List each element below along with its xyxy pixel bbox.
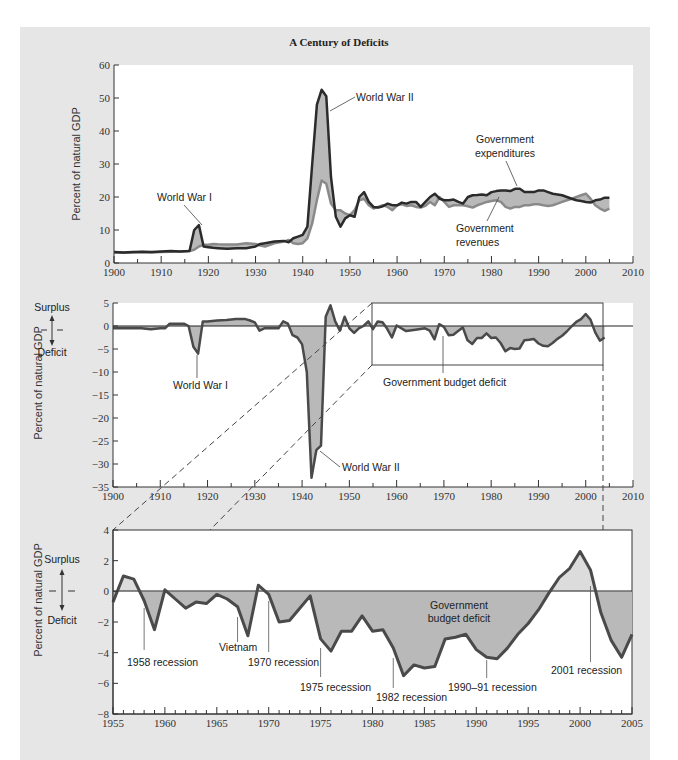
x-tick-label: 1980	[480, 490, 503, 502]
y-tick-label: −10	[92, 366, 110, 378]
y-tick-label: 4	[104, 524, 110, 536]
y-tick-label: −25	[92, 435, 110, 447]
x-tick-label: 1960	[386, 266, 409, 278]
x-tick-label: 1930	[245, 266, 268, 278]
top-chart-expenditures-revenues: 0102030405060190019101920193019401950196…	[70, 59, 645, 278]
annotation-1990-91-recession: 1990–91 recession	[448, 681, 537, 693]
x-tick-label: 2000	[575, 490, 598, 502]
y-tick-label: 10	[99, 224, 111, 236]
arrow-up-icon	[50, 315, 55, 321]
x-tick-label: 1965	[206, 717, 229, 729]
annotation-world-war-i: World War I	[157, 191, 212, 203]
annotation-1970-recession: 1970 recession	[248, 656, 319, 668]
y-tick-label: −4	[97, 647, 109, 659]
x-tick-label: 1940	[292, 266, 315, 278]
y-tick-label: 5	[104, 297, 110, 309]
svg-text:budget deficit: budget deficit	[428, 612, 491, 624]
x-tick-label: 1930	[244, 490, 267, 502]
x-tick-label: 2005	[621, 717, 644, 729]
bottom-arrow-up-icon	[60, 569, 65, 575]
y-tick-label: −20	[92, 412, 110, 424]
x-tick-label: 1990	[465, 717, 488, 729]
annotation-government-budget-deficit: Government	[430, 599, 488, 611]
x-tick-label: 1980	[362, 717, 385, 729]
middle-chart-century-deficit: 50−5−10−15−20−25−30−35190019101920193019…	[32, 297, 645, 502]
middle-y-axis-label: Percent of natural GDP	[32, 326, 44, 440]
svg-text:expenditures: expenditures	[475, 147, 535, 159]
y-tick-label: 2	[104, 555, 110, 567]
y-tick-label: 60	[99, 59, 111, 71]
x-tick-label: 1920	[197, 266, 220, 278]
annotation-2001-recession: 2001 recession	[551, 664, 622, 676]
annotation-government-expenditures: Government	[476, 133, 534, 145]
annotation-world-war-ii: World War II	[342, 461, 400, 473]
top-y-axis-label: Percent of natural GDP	[70, 107, 82, 221]
bottom-surplus-deficit-indicator: Surplus Deficit	[44, 553, 80, 626]
x-tick-label: 2010	[622, 490, 645, 502]
x-tick-label: 2000	[575, 266, 598, 278]
x-tick-label: 1955	[102, 717, 125, 729]
x-tick-label: 2000	[569, 717, 592, 729]
x-tick-label: 1975	[310, 717, 333, 729]
x-tick-label: 1990	[528, 266, 551, 278]
bottom-deficit-label: Deficit	[47, 614, 76, 626]
y-tick-label: 20	[99, 191, 111, 203]
x-tick-label: 1960	[154, 717, 177, 729]
x-tick-label: 1900	[102, 490, 125, 502]
annotation-government-revenues: Government	[456, 222, 514, 234]
bottom-y-axis-label: Percent of natural GDP	[32, 543, 44, 657]
annotation-world-war-i: World War I	[173, 379, 228, 391]
deficit-label: Deficit	[37, 346, 66, 358]
x-tick-label: 1970	[433, 490, 456, 502]
y-tick-label: −5	[97, 343, 109, 355]
y-tick-label: 50	[99, 92, 111, 104]
annotation-government-budget-deficit: Government budget deficit	[383, 376, 506, 388]
x-tick-label: 2010	[622, 266, 645, 278]
annotation-world-war-ii: World War II	[356, 91, 414, 103]
x-tick-label: 1920	[197, 490, 220, 502]
y-tick-label: −30	[92, 458, 110, 470]
x-tick-label: 1910	[150, 266, 173, 278]
surplus-label: Surplus	[34, 301, 70, 313]
x-tick-label: 1970	[433, 266, 456, 278]
bottom-surplus-label: Surplus	[44, 553, 80, 565]
y-tick-label: −2	[97, 616, 109, 628]
y-tick-label: −15	[92, 389, 110, 401]
x-tick-label: 1950	[338, 490, 361, 502]
y-tick-label: 40	[99, 125, 111, 137]
svg-text:revenues: revenues	[456, 236, 499, 248]
x-tick-label: 1980	[480, 266, 503, 278]
x-tick-label: 1995	[517, 717, 540, 729]
x-tick-label: 1910	[149, 490, 172, 502]
x-tick-label: 1970	[258, 717, 281, 729]
annotation-1982-recession: 1982 recession	[376, 691, 447, 703]
bottom-arrow-down-icon	[60, 605, 65, 611]
x-tick-label: 1990	[527, 490, 550, 502]
x-tick-label: 1940	[291, 490, 314, 502]
annotation-1975-recession: 1975 recession	[300, 681, 371, 693]
y-tick-label: 0	[104, 320, 110, 332]
annotation-1958-recession: 1958 recession	[127, 656, 198, 668]
annotation-vietnam: Vietnam	[219, 641, 258, 653]
x-tick-label: 1950	[339, 266, 362, 278]
x-tick-label: 1960	[386, 490, 409, 502]
x-tick-label: 1985	[413, 717, 436, 729]
bottom-chart-1955-2005-deficit: 420−2−4−6−819551960196519701975198019851…	[32, 524, 644, 729]
x-tick-label: 1900	[103, 266, 126, 278]
y-tick-label: 0	[104, 585, 110, 597]
y-tick-label: −6	[97, 677, 109, 689]
y-tick-label: 30	[99, 158, 111, 170]
century-of-deficits-figure: A Century of Deficits 010203040506019001…	[0, 0, 678, 760]
figure-title: A Century of Deficits	[289, 36, 389, 48]
